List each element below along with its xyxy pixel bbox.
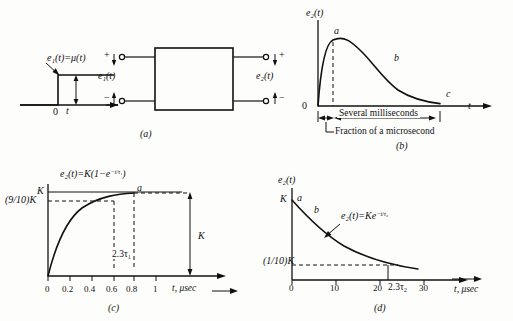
panel-d-point-b: b [314, 204, 319, 215]
panel-c-tau-marker: 2.3τ₁ [112, 249, 131, 259]
panel-c-xlabel: t, μsec [172, 283, 196, 293]
panel-d-ylabel-k: K [280, 193, 287, 204]
panel-b-ylabel: e₂(t) [306, 7, 323, 18]
panel-d-tau-marker: 2.3τ₂ [388, 282, 407, 292]
panel-b-origin: 0 [302, 100, 307, 111]
panel-d-xtick-0: 0 [289, 283, 294, 293]
panel-b-annotation-milliseconds: Several milliseconds [337, 108, 420, 118]
step-time-axis-label: t [66, 105, 69, 116]
panel-c-xtick-0: 0 [45, 284, 50, 294]
panel-c-xtick-2: 0.4 [84, 284, 95, 294]
panel-c-xtick-5: 1 [153, 284, 158, 294]
panel-d-xlabel: t, μsec [454, 284, 478, 294]
panel-c-equation: e₂(t)=K(1−e−t/τ₁) [60, 168, 126, 179]
panel-c-xtick-1: 0.2 [62, 284, 73, 294]
panel-b: e₂(t) a b c 0 t Several milliseconds Fra… [290, 0, 513, 150]
panel-c-plot [22, 180, 252, 300]
input-plus-sign: + [104, 49, 110, 60]
panel-c-xaxis-arrow [212, 286, 242, 296]
panel-d-ylabel: e₂(t) [278, 174, 295, 185]
panel-d-xtick-2: 20 [373, 283, 382, 293]
panel-c-point-a: a [137, 182, 142, 193]
panel-a-caption: (a) [140, 128, 152, 139]
panel-b-caption: (b) [396, 140, 408, 151]
step-origin-label: 0 [53, 106, 58, 117]
output-voltage-label: e₂(t) [256, 70, 273, 81]
panel-a: e₁(t)=μ(t) 0 t + − e₁(t) + [0, 0, 290, 150]
output-plus-sign: + [279, 49, 285, 60]
input-minus-sign: − [104, 92, 110, 103]
step-function-label: e₁(t)=μ(t) [47, 52, 86, 63]
panel-d-xtick-1: 10 [330, 283, 339, 293]
panel-c-exponent: −t/τ₁ [110, 168, 122, 175]
panel-d-point-a: a [297, 192, 302, 203]
panel-d: e₂(t) K a b (1/10)K e₂(t)=Ke−t/τ₂ 0 10 2… [258, 152, 513, 321]
panel-d-exponent: −t/τ₂ [376, 210, 388, 217]
panel-b-xlabel: t [468, 100, 471, 111]
panel-b-point-c: c [446, 88, 450, 99]
panel-d-xaxis-arrow [452, 274, 488, 284]
panel-b-point-b: b [394, 52, 399, 63]
panel-d-equation: e₂(t)=Ke−t/τ₂ [341, 210, 388, 221]
panel-c-caption: (c) [108, 302, 119, 313]
panel-d-caption: (d) [374, 302, 386, 313]
input-voltage-label: e₁(t) [98, 70, 115, 81]
panel-c-amplitude-k: K [198, 230, 205, 241]
panel-c: e₂(t)=K(1−e−t/τ₁) K (9/10)K K a [0, 152, 260, 321]
panel-c-ylabel-ninety-percent: (9/10)K [5, 194, 36, 205]
panel-b-point-a: a [334, 25, 339, 36]
panel-c-ylabel-k: K [37, 185, 44, 196]
panel-d-xtick-3: 30 [419, 283, 428, 293]
output-minus-sign: − [279, 92, 285, 103]
panel-c-xtick-4: 0.8 [126, 284, 137, 294]
panel-b-annotation-microsecond: Fraction of a microsecond [335, 126, 434, 136]
panel-d-ylabel-tenth: (1/10)K [263, 255, 294, 266]
panel-c-xtick-3: 0.6 [106, 284, 117, 294]
network-block-diagram [103, 40, 283, 135]
